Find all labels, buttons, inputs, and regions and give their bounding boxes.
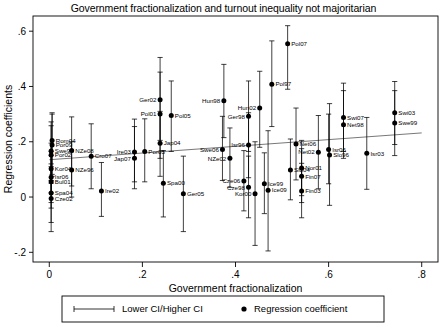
coefficient-dot <box>364 151 369 156</box>
data-point[interactable]: Ger02 <box>139 57 162 140</box>
point-label: Ger05 <box>187 190 205 197</box>
data-point[interactable]: Spa00 <box>161 151 186 217</box>
point-label: Por05 <box>148 148 165 155</box>
data-point[interactable]: Ice99 <box>262 153 284 214</box>
coefficient-dot <box>392 120 397 125</box>
point-label: Nor01 <box>305 164 322 171</box>
legend: Lower CI/Higher CIRegression coefficient <box>62 296 384 322</box>
point-label: Jap07 <box>114 155 131 162</box>
data-point[interactable]: Ger05 <box>181 156 205 231</box>
coefficient-dot <box>158 141 163 146</box>
coefficient-dot <box>227 156 232 161</box>
scatter-plot: -.20.2.4.60.2.4.6.8Regression coefficien… <box>0 0 447 328</box>
data-point[interactable]: Cro07 <box>89 124 113 189</box>
data-point[interactable]: NZe08 <box>69 117 94 186</box>
point-label: Fin03 <box>305 187 321 194</box>
x-tick-label: 0 <box>47 269 53 280</box>
coefficient-dot <box>262 181 267 186</box>
data-point[interactable]: Swi07 <box>341 83 365 151</box>
data-point[interactable]: Ire03 <box>117 119 137 182</box>
point-label: Hun98 <box>202 97 221 104</box>
point-label: Swe06 <box>200 146 219 153</box>
coefficient-dot <box>142 149 147 154</box>
coefficient-dot <box>257 106 262 111</box>
point-label: Bul01 <box>55 178 71 185</box>
point-label: Swi07 <box>347 114 364 121</box>
data-point[interactable]: Jap07 <box>114 127 137 189</box>
point-label: Ice09 <box>272 186 288 193</box>
data-point[interactable]: Ire02 <box>99 162 120 216</box>
x-axis-title: Government fractionalization <box>169 282 303 294</box>
coefficient-dot <box>253 191 258 196</box>
coefficient-dot <box>220 147 225 152</box>
point-label: Pol01 <box>141 110 157 117</box>
point-label: NZe02 <box>208 155 227 162</box>
y-axis-title: Regression coefficients <box>2 85 14 193</box>
legend-label-ci: Lower CI/Higher CI <box>122 303 203 314</box>
coefficient-dot <box>89 154 94 159</box>
point-label: Cze02 <box>55 195 73 202</box>
point-label: Pol07 <box>291 40 307 47</box>
point-label: Hun02 <box>238 104 257 111</box>
point-label: Net06 <box>300 140 317 147</box>
y-tick-label: 0 <box>20 192 26 203</box>
point-label: Spa00 <box>167 179 185 186</box>
coefficient-dot <box>181 191 186 196</box>
coefficient-dot <box>299 188 304 193</box>
data-point[interactable]: Swe99 <box>392 91 418 156</box>
data-point[interactable]: Kor00 <box>235 142 258 246</box>
point-label: Cro07 <box>95 152 112 159</box>
point-label: Net98 <box>347 121 364 128</box>
point-label: Jap04 <box>164 139 181 146</box>
data-point[interactable]: Swe06 <box>200 116 225 180</box>
point-label: Swi03 <box>398 109 415 116</box>
plot-frame <box>33 16 438 262</box>
legend-label-coefficient: Regression coefficient <box>254 303 348 314</box>
point-label: Ger02 <box>139 96 157 103</box>
coefficient-dot <box>327 153 332 158</box>
data-point[interactable]: Isr03 <box>364 117 385 189</box>
coefficient-dot <box>132 156 137 161</box>
x-tick-label: .2 <box>138 269 147 280</box>
data-point[interactable]: Fin07 <box>299 149 321 203</box>
data-point[interactable]: Ice09 <box>265 131 287 251</box>
point-label: Por02 <box>55 151 72 158</box>
coefficient-dot <box>266 188 271 193</box>
point-label: Ire02 <box>105 187 120 194</box>
point-label: Ger98 <box>228 113 246 120</box>
coefficient-dot <box>246 143 251 148</box>
coefficient-dot <box>221 98 226 103</box>
x-tick-label: .6 <box>324 269 333 280</box>
y-tick-label: .4 <box>18 81 27 92</box>
point-label: Net02 <box>298 148 315 155</box>
coefficient-dot <box>316 150 321 155</box>
coefficient-dot <box>285 41 290 46</box>
data-point[interactable]: Isr96 <box>231 113 251 178</box>
coefficient-dot <box>161 181 166 186</box>
y-tick-label: .2 <box>18 136 27 147</box>
data-point[interactable]: Jap04 <box>157 111 181 176</box>
coefficient-dot <box>169 113 174 118</box>
coefficient-dot <box>294 141 299 146</box>
coefficient-dot <box>341 122 346 127</box>
coefficient-dot <box>49 196 54 201</box>
point-label: Slo96 <box>333 151 349 158</box>
data-point[interactable]: Hun02 <box>238 71 262 147</box>
point-label: Swe99 <box>398 119 417 126</box>
coefficient-dot <box>288 167 293 172</box>
legend-dot-icon <box>241 306 246 311</box>
coefficient-dot <box>269 82 274 87</box>
coefficient-dot <box>99 188 104 193</box>
point-label: Kor00 <box>235 190 252 197</box>
coefficient-dot <box>326 147 331 152</box>
point-label: Kor04 <box>55 165 72 172</box>
x-tick-label: .8 <box>418 269 427 280</box>
figure-container: Government fractionalization and turnout… <box>0 0 447 328</box>
data-point[interactable]: Pol97 <box>269 41 292 127</box>
x-tick-label: .4 <box>231 269 240 280</box>
data-point[interactable]: Cze98 <box>227 156 251 218</box>
point-label: Pol05 <box>175 112 191 119</box>
point-label: Pol97 <box>275 80 291 87</box>
y-tick-label: .6 <box>18 26 27 37</box>
point-label: Fin07 <box>305 173 321 180</box>
